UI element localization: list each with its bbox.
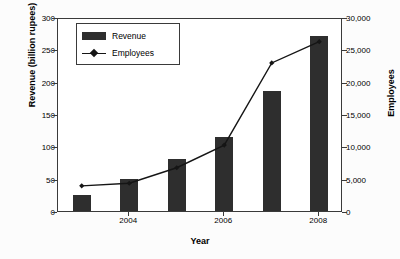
chart-figure: Revenue (billion rupees) Employees Year … [0, 0, 400, 259]
y-axis-label-left: Revenue (billion rupees) [27, 0, 37, 135]
y-tick-label-right: 25,000 [346, 46, 370, 55]
y-tick-mark-left [52, 212, 57, 213]
legend-label-employees: Employees [112, 48, 154, 58]
y-tick-label-right: 10,000 [346, 143, 370, 152]
x-tick-label: 2006 [214, 216, 232, 225]
line-marker [79, 183, 84, 188]
legend-line-swatch-icon [82, 49, 106, 57]
chart-legend: Revenue Employees [76, 23, 180, 65]
legend-item-employees: Employees [82, 45, 154, 61]
y-tick-label-right: 15,000 [346, 111, 370, 120]
x-axis-label: Year [0, 236, 400, 246]
legend-bar-swatch-icon [82, 32, 106, 40]
line-marker [174, 165, 179, 170]
line-marker [317, 39, 322, 44]
y-tick-label-right: 5,000 [346, 175, 366, 184]
y-tick-label-right: 20,000 [346, 78, 370, 87]
line-marker [127, 181, 132, 186]
y-tick-label-right: 30,000 [346, 14, 370, 23]
x-tick-label: 2008 [309, 216, 327, 225]
x-tick-label: 2004 [119, 216, 137, 225]
legend-item-revenue: Revenue [82, 28, 146, 44]
y-axis-label-right: Employees [386, 33, 396, 153]
legend-label-revenue: Revenue [112, 31, 146, 41]
